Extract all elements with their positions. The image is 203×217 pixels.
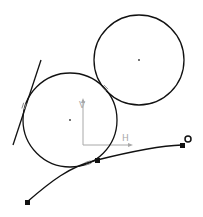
v-axis-label: V bbox=[79, 100, 86, 110]
circle-lower-left-center[interactable] bbox=[69, 119, 71, 121]
spline-end-marker-icon[interactable] bbox=[185, 136, 191, 142]
tangent-line[interactable] bbox=[13, 60, 41, 145]
sketch-canvas[interactable]: H V bbox=[0, 0, 203, 217]
spline-end-point[interactable] bbox=[180, 143, 185, 148]
spline-curve[interactable] bbox=[27, 145, 182, 202]
h-arrow-icon bbox=[128, 143, 133, 147]
h-axis-label: H bbox=[122, 133, 129, 143]
circle-upper-right-center[interactable] bbox=[138, 59, 140, 61]
spline-mid-point[interactable] bbox=[95, 158, 100, 163]
spline-start-point[interactable] bbox=[25, 200, 30, 205]
sketch-axis: H V bbox=[79, 98, 133, 147]
